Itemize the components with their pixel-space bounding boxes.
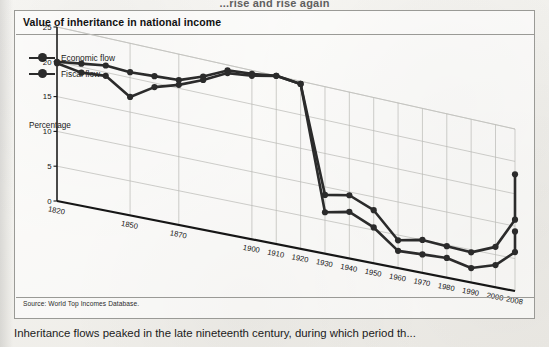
svg-text:5: 5 (47, 162, 52, 171)
x-axis-tick-labels: 1820185018701900191019201930194019501960… (47, 205, 523, 307)
svg-text:25: 25 (43, 23, 52, 32)
svg-text:1910: 1910 (267, 248, 285, 260)
source-divider (16, 297, 535, 298)
svg-text:1950: 1950 (364, 267, 382, 279)
svg-text:1980: 1980 (437, 281, 455, 293)
running-head: ...rise and rise again (0, 0, 549, 9)
chart-series-lines (54, 59, 518, 271)
svg-text:1850: 1850 (120, 219, 138, 231)
chart-gridlines (57, 27, 515, 291)
figure-box: Value of inheritance in national income … (14, 10, 535, 319)
svg-text:1870: 1870 (169, 228, 187, 240)
svg-text:20: 20 (43, 58, 52, 67)
svg-text:1820: 1820 (47, 205, 65, 217)
y-axis-tick-labels: 0510152025 (43, 23, 52, 206)
svg-text:10: 10 (43, 127, 52, 136)
running-head-text: ...rise and rise again (219, 0, 329, 9)
body-paragraph: Inheritance flows peaked in the late nin… (14, 326, 543, 347)
svg-text:1940: 1940 (340, 262, 358, 274)
svg-text:1930: 1930 (315, 257, 333, 269)
svg-text:1960: 1960 (388, 272, 406, 284)
scan-gutter-shadow (0, 0, 13, 347)
line-chart: 0510152025 18201850187019001910192019301… (15, 11, 536, 320)
svg-text:1970: 1970 (413, 276, 431, 288)
svg-text:1920: 1920 (291, 252, 309, 264)
svg-text:1900: 1900 (242, 243, 260, 255)
source-note: Source: World Top Incomes Database. (23, 300, 139, 307)
svg-text:15: 15 (43, 92, 52, 101)
